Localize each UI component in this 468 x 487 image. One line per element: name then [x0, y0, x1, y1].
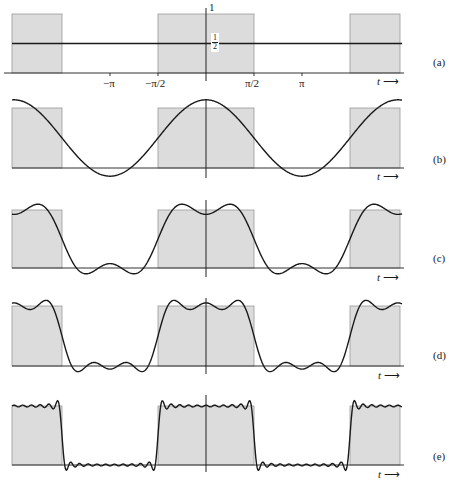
t-axis-label-b: t ⟶ — [377, 171, 399, 182]
square-wave-pulse — [12, 210, 62, 268]
t-label: t — [377, 75, 380, 87]
panel-label-e: (e) — [433, 451, 445, 462]
square-wave-pulse — [12, 406, 62, 465]
square-wave-pulse — [12, 306, 62, 366]
panel-label-a: (a) — [433, 57, 445, 68]
square-wave-pulse — [12, 108, 62, 168]
arrow-right-icon: ⟶ — [383, 170, 399, 182]
y-tick-one: 1 — [209, 2, 215, 13]
arrow-right-icon: ⟶ — [383, 75, 399, 87]
t-axis-label-a: t ⟶ — [377, 76, 399, 87]
half-denominator: 2 — [211, 43, 219, 51]
t-axis-label-e: t ⟶ — [378, 469, 400, 480]
arrow-right-icon: ⟶ — [383, 271, 399, 283]
t-label: t — [378, 468, 381, 480]
fourier-square-wave-figure — [0, 0, 468, 487]
square-wave-pulse — [350, 108, 400, 168]
t-label: t — [377, 170, 380, 182]
panel-label-c: (c) — [433, 253, 445, 264]
t-label: t — [378, 369, 381, 381]
half-numerator: 1 — [211, 34, 219, 42]
x-tick-half-pi: π/2 — [245, 78, 259, 89]
arrow-right-icon: ⟶ — [384, 369, 400, 381]
square-wave-pulse — [350, 306, 400, 366]
t-axis-label-c: t ⟶ — [377, 272, 399, 283]
x-tick-neg-half-pi: −π/2 — [145, 78, 165, 89]
t-axis-label-d: t ⟶ — [378, 370, 400, 381]
y-tick-half: 1 2 — [211, 33, 219, 52]
square-wave-pulse — [350, 406, 400, 465]
t-label: t — [377, 271, 380, 283]
arrow-right-icon: ⟶ — [384, 468, 400, 480]
panel-label-d: (d) — [433, 350, 446, 361]
x-tick-pi: π — [299, 78, 305, 89]
panel-label-b: (b) — [433, 154, 446, 165]
square-wave-pulse — [350, 210, 400, 268]
x-tick-neg-pi: −π — [103, 78, 115, 89]
